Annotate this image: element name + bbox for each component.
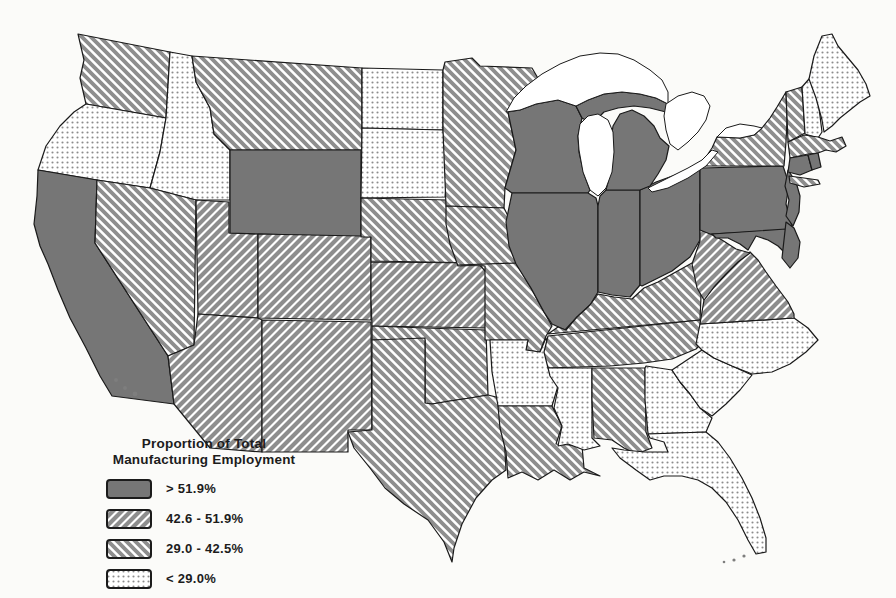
- legend-title: Proportion of Total Manufacturing Employ…: [88, 436, 320, 468]
- legend-swatch-hatch-down: [106, 539, 152, 559]
- state-sd: [361, 128, 448, 198]
- state-wy: [230, 150, 361, 237]
- legend-label: < 29.0%: [166, 571, 216, 586]
- state-al: [592, 368, 652, 454]
- legend-label: 42.6 - 51.9%: [166, 511, 243, 526]
- state-de: [782, 222, 800, 268]
- legend-item-lt-29-0: < 29.0%: [106, 568, 338, 589]
- florida-keys: [742, 554, 745, 557]
- legend-swatch-solid: [106, 479, 152, 499]
- state-co: [258, 234, 371, 320]
- legend-label: > 51.9%: [166, 481, 216, 496]
- legend-swatch-hatch-up: [106, 509, 152, 529]
- state-in: [598, 190, 640, 297]
- lake-huron: [664, 92, 710, 150]
- legend: Proportion of Total Manufacturing Employ…: [88, 436, 338, 598]
- figure-manufacturing-employment-map: Proportion of Total Manufacturing Employ…: [0, 0, 896, 598]
- legend-swatch-dots: [106, 569, 152, 589]
- legend-label: 29.0 - 42.5%: [166, 541, 243, 556]
- state-wi: [505, 100, 590, 193]
- state-mt: [192, 56, 362, 150]
- legend-title-line2: Manufacturing Employment: [88, 452, 320, 468]
- legend-title-line1: Proportion of Total: [88, 436, 320, 452]
- state-mi: [606, 110, 669, 190]
- state-pa: [700, 166, 792, 234]
- legend-item-gt-51-9: > 51.9%: [106, 478, 338, 499]
- legend-items: > 51.9% 42.6 - 51.9% 29.0 - 42.5% < 29.0…: [88, 478, 338, 589]
- florida-keys: [732, 558, 735, 561]
- legend-item-42-6-51-9: 42.6 - 51.9%: [106, 508, 338, 529]
- channel-islands: [114, 378, 118, 382]
- state-nd: [362, 68, 443, 130]
- legend-item-29-0-42-5: 29.0 - 42.5%: [106, 538, 338, 559]
- florida-keys: [723, 561, 726, 564]
- state-ks: [371, 262, 486, 328]
- channel-islands: [123, 386, 127, 390]
- channel-islands: [133, 392, 138, 397]
